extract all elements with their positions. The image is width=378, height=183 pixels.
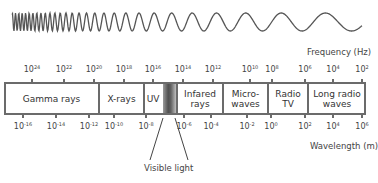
visible-light-caption: Visible light (144, 163, 193, 173)
